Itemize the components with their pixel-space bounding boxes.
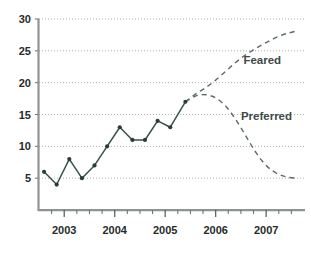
y-tick-label-15: 15 [19, 109, 31, 121]
data-point-actual-7 [130, 138, 134, 142]
data-point-actual-4 [92, 163, 96, 167]
forecast-line-chart: 51015202530 20032004200520062007 FearedP… [0, 0, 311, 254]
x-tick-label-2007: 2007 [254, 224, 278, 236]
x-tick-label-2006: 2006 [203, 224, 227, 236]
x-tick-label-2004: 2004 [102, 224, 127, 236]
x-tick-label-2003: 2003 [52, 224, 76, 236]
data-point-actual-2 [67, 157, 71, 161]
data-point-actual-6 [118, 125, 122, 129]
y-tick-label-5: 5 [25, 172, 31, 184]
y-tick-label-30: 30 [19, 13, 31, 25]
x-tick-label-2005: 2005 [153, 224, 177, 236]
data-point-actual-1 [55, 182, 59, 186]
data-point-actual-9 [156, 119, 160, 123]
data-point-actual-8 [143, 138, 147, 142]
y-tick-label-20: 20 [19, 77, 31, 89]
chart-background [0, 0, 311, 254]
data-point-actual-11 [183, 100, 187, 104]
chart-container: 51015202530 20032004200520062007 FearedP… [0, 0, 311, 254]
data-point-actual-0 [42, 170, 46, 174]
annotation-feared: Feared [243, 54, 281, 66]
data-point-actual-5 [105, 144, 109, 148]
annotation-preferred: Preferred [241, 110, 292, 122]
y-tick-label-10: 10 [19, 140, 31, 152]
data-point-actual-10 [168, 125, 172, 129]
y-tick-label-25: 25 [19, 45, 31, 57]
data-point-actual-3 [80, 176, 84, 180]
